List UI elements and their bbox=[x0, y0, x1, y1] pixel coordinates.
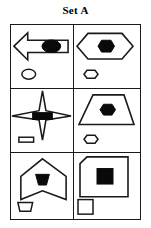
grid-cell-row2-col2 bbox=[74, 89, 140, 153]
small-square-icon bbox=[78, 200, 93, 215]
grid-cell-row3-col2 bbox=[74, 153, 140, 219]
inner-square-filled-icon bbox=[97, 169, 113, 185]
grid-cell-row3-col1 bbox=[11, 153, 74, 219]
small-rectangle-icon bbox=[19, 137, 34, 142]
banner-chevron-shape-icon bbox=[11, 153, 73, 219]
four-pointed-star-shape-icon bbox=[11, 89, 73, 152]
inner-hexagon-filled-icon bbox=[100, 104, 116, 115]
inner-trapezoid-filled-icon bbox=[36, 174, 50, 185]
hexagon-shape-icon bbox=[74, 25, 140, 88]
inner-rectangle-filled-icon bbox=[33, 113, 53, 120]
grid-cell-row1-col1 bbox=[11, 25, 74, 89]
small-hexagon-icon bbox=[84, 135, 98, 143]
left-arrow-shape-icon bbox=[11, 25, 73, 88]
shape-grid bbox=[10, 24, 141, 220]
clipped-corner-square-shape-icon bbox=[74, 153, 140, 219]
small-ellipse-icon bbox=[22, 69, 36, 79]
trapezoid-shape-icon bbox=[74, 89, 140, 152]
grid-cell-row1-col2 bbox=[74, 25, 140, 89]
page-title: Set A bbox=[0, 4, 151, 17]
small-trapezoid-icon bbox=[18, 203, 33, 212]
grid-cell-row2-col1 bbox=[11, 89, 74, 153]
figure-root: Set A bbox=[0, 0, 151, 228]
inner-ellipse-filled-icon bbox=[42, 40, 61, 53]
inner-hexagon-filled-icon bbox=[98, 40, 115, 52]
small-hexagon-icon bbox=[84, 70, 98, 78]
